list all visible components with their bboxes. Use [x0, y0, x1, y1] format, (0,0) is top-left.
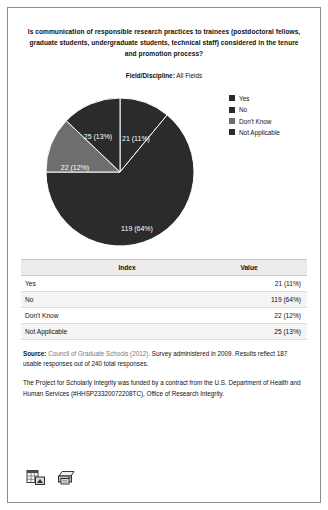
chart-area: 21 (11%) 119 (64%) 22 (12%) 25 (13%) Yes… [21, 85, 307, 257]
legend-label: Yes [239, 95, 249, 102]
table-row: No 119 (64%) [21, 291, 307, 307]
cell-index: Not Applicable [21, 323, 197, 339]
column-header-value[interactable]: Value [197, 259, 307, 275]
pie-chart-svg: 21 (11%) 119 (64%) 22 (12%) 25 (13%) [41, 93, 199, 251]
report-frame: Is communication of responsible research… [7, 7, 321, 503]
notes-section: Source: Council of Graduate Schools (201… [21, 349, 307, 399]
field-discipline-label: Field/Discipline: [126, 72, 175, 79]
cell-value: 22 (12%) [197, 307, 307, 323]
legend-swatch-icon [229, 118, 235, 124]
cell-value: 119 (64%) [197, 291, 307, 307]
table-row: Don't Know 22 (12%) [21, 307, 307, 323]
cell-value: 25 (13%) [197, 323, 307, 339]
pie-label-no: 119 (64%) [121, 225, 153, 233]
print-chart-glyph [56, 468, 77, 486]
chart-legend: Yes No Don't Know Not Applicable [229, 93, 324, 139]
funding-note: The Project for Scholarly Integrity was … [23, 378, 307, 399]
table-header-row: Index Value [21, 259, 307, 275]
cell-index: Don't Know [21, 307, 197, 323]
table-row: Not Applicable 25 (13%) [21, 323, 307, 339]
export-spreadsheet-icon[interactable] [26, 468, 47, 486]
report-page: Is communication of responsible research… [0, 0, 328, 510]
legend-item-not-applicable[interactable]: Not Applicable [229, 127, 324, 138]
source-note: Source: Council of Graduate Schools (201… [23, 349, 307, 370]
field-discipline-value: All Fields [176, 72, 202, 79]
cell-index: Yes [21, 275, 197, 291]
pie-label-yes: 21 (11%) [122, 135, 150, 143]
legend-item-dont-know[interactable]: Don't Know [229, 115, 324, 126]
legend-item-yes[interactable]: Yes [229, 93, 324, 104]
legend-label: Don't Know [239, 118, 271, 125]
legend-label: Not Applicable [239, 129, 280, 136]
print-chart-icon[interactable] [56, 468, 77, 486]
field-discipline-subtitle: Field/Discipline: All Fields [21, 71, 307, 81]
column-header-index[interactable]: Index [21, 259, 197, 275]
pie-label-dont-know: 22 (12%) [61, 164, 89, 172]
footer-toolbar [26, 468, 77, 486]
legend-swatch-icon [229, 95, 235, 101]
results-table: Index Value Yes 21 (11%) No 119 (64%) Do… [21, 259, 307, 340]
cell-index: No [21, 291, 197, 307]
legend-label: No [239, 106, 247, 113]
table-row: Yes 21 (11%) [21, 275, 307, 291]
cell-value: 21 (11%) [197, 275, 307, 291]
legend-swatch-icon [229, 129, 235, 135]
source-label: Source: [23, 350, 46, 357]
source-citation: Council of Graduate Schools (2012). [48, 350, 150, 357]
pie-chart: 21 (11%) 119 (64%) 22 (12%) 25 (13%) [41, 93, 199, 251]
legend-swatch-icon [229, 107, 235, 113]
pie-label-not-applicable: 25 (13%) [84, 133, 112, 141]
legend-item-no[interactable]: No [229, 104, 324, 115]
export-spreadsheet-glyph [26, 468, 47, 486]
page-title: Is communication of responsible research… [25, 26, 303, 60]
